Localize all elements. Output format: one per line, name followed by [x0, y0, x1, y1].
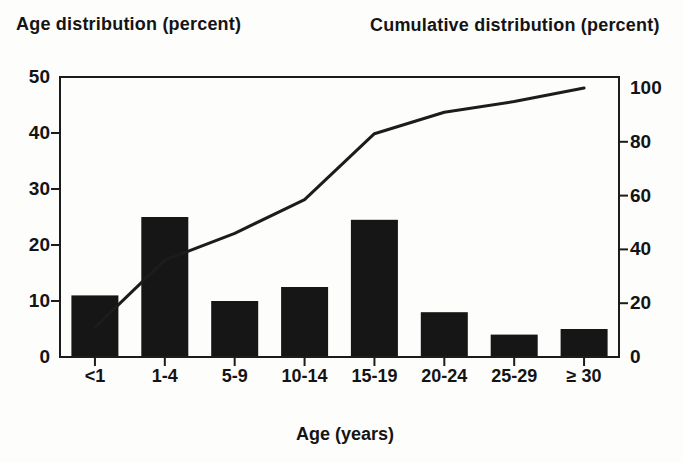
y-axis-right-tick-label: 0 [630, 346, 682, 368]
y-axis-left-tick-label: 40 [0, 122, 50, 144]
distribution-bar [351, 220, 398, 357]
y-axis-right-tick-label: 60 [630, 185, 682, 207]
distribution-bar [561, 329, 608, 357]
y-axis-right-tick-label: 80 [630, 131, 682, 153]
x-axis-title: Age (years) [245, 424, 445, 445]
y-axis-left-tick-label: 20 [0, 234, 50, 256]
x-axis-category-label: ≥ 30 [542, 366, 626, 387]
y-axis-right-tick-label: 100 [630, 77, 682, 99]
distribution-bar [281, 287, 328, 357]
distribution-bar [421, 312, 468, 357]
y-axis-right-tick-label: 20 [630, 292, 682, 314]
y-axis-right-tick-label: 40 [630, 238, 682, 260]
chart-figure: Age distribution (percent) Cumulative di… [0, 0, 683, 462]
y-axis-left-tick-label: 30 [0, 178, 50, 200]
distribution-bar [211, 301, 258, 357]
y-axis-left-tick-label: 10 [0, 290, 50, 312]
distribution-bar [491, 335, 538, 357]
y-axis-left-tick-label: 50 [0, 66, 50, 88]
plot-area [0, 0, 683, 462]
distribution-bar [141, 217, 188, 357]
y-axis-left-tick-label: 0 [0, 346, 50, 368]
